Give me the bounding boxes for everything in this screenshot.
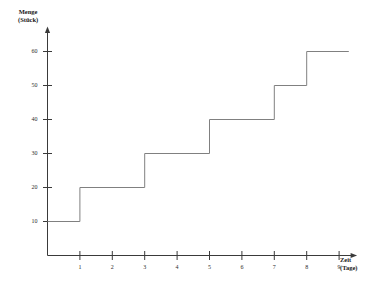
y-axis-arrowhead — [45, 27, 50, 34]
x-axis-tick-label: 5 — [204, 264, 216, 270]
x-axis-tick-label: 8 — [301, 264, 313, 270]
x-axis-tick-label: 1 — [74, 264, 86, 270]
axes-group — [45, 27, 357, 259]
x-axis-tick-label: 9 — [333, 264, 345, 270]
x-axis-tick-label: 7 — [268, 264, 280, 270]
y-axis-tick-label: 40 — [22, 116, 38, 122]
chart-plot-area — [0, 0, 369, 284]
step-chart: Menge (Stück) Zeit (Tage) 102030405060 1… — [0, 0, 369, 284]
y-axis-title-line-2: (Stück) — [18, 16, 38, 24]
x-axis-tick-label: 4 — [171, 264, 183, 270]
y-axis-title-line-1: Menge — [18, 8, 38, 16]
step-series-line — [48, 52, 349, 222]
y-axis-tick-label: 10 — [22, 218, 38, 224]
y-axis-tick-label: 60 — [22, 48, 38, 54]
axis-ticks-group — [43, 52, 339, 261]
y-axis-tick-label: 30 — [22, 150, 38, 156]
y-axis-tick-label: 50 — [22, 82, 38, 88]
y-axis-tick-label: 20 — [22, 184, 38, 190]
x-axis-tick-label: 6 — [236, 264, 248, 270]
x-axis-tick-label: 2 — [106, 264, 118, 270]
x-axis-tick-label: 3 — [139, 264, 151, 270]
y-axis-title: Menge (Stück) — [18, 8, 38, 24]
